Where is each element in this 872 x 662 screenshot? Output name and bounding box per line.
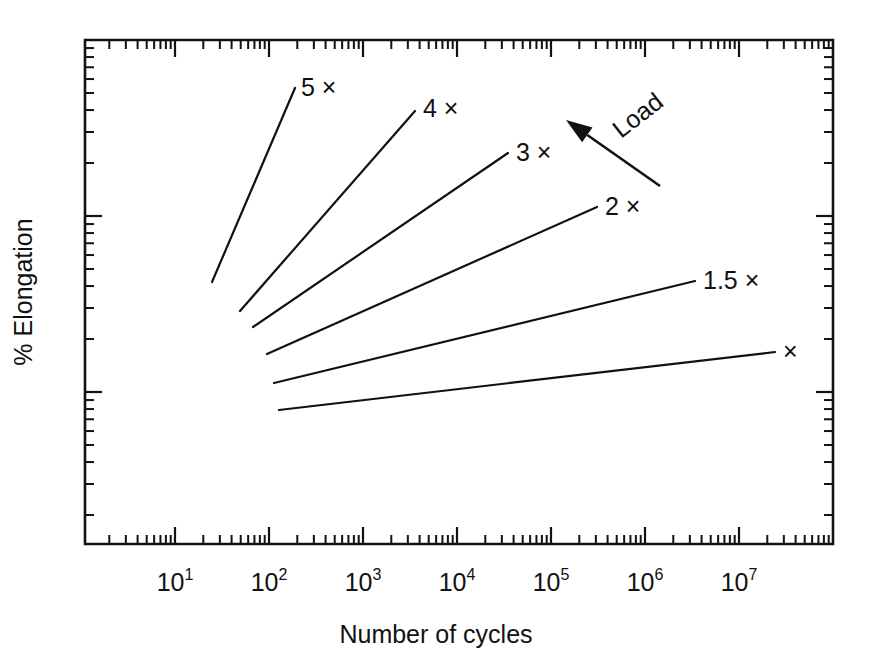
data-series-line — [279, 352, 775, 410]
x-axis-title: Number of cycles — [339, 620, 532, 648]
load-arrow-head — [566, 120, 592, 142]
data-series-line — [212, 88, 295, 282]
series-label: 4 × — [423, 94, 458, 122]
x-tick-label-exponent: 2 — [278, 566, 287, 583]
data-series-labels: 5 ×4 ×3 ×2 ×1.5 ×× — [301, 73, 798, 365]
x-tick-label: 105 — [533, 566, 570, 596]
data-series-line — [253, 153, 508, 327]
x-tick-label: 102 — [251, 566, 288, 596]
series-label: 2 × — [605, 192, 640, 220]
series-label: × — [783, 337, 798, 365]
series-label: 5 × — [301, 73, 336, 101]
load-arrow-label: Load — [607, 87, 668, 143]
x-tick-label-exponent: 7 — [748, 566, 757, 583]
x-tick-label-base: 10 — [251, 568, 279, 596]
x-tick-label-base: 10 — [627, 568, 655, 596]
x-tick-label-base: 10 — [533, 568, 561, 596]
x-tick-label-base: 10 — [721, 568, 749, 596]
x-tick-label-exponent: 1 — [184, 566, 193, 583]
x-tick-label: 103 — [345, 566, 382, 596]
x-tick-label: 101 — [157, 566, 194, 596]
y-axis-title: % Elongation — [9, 218, 37, 365]
chart-canvas: 5 ×4 ×3 ×2 ×1.5 ×× 101102103104105106107… — [0, 0, 872, 662]
data-series-line — [267, 207, 597, 354]
x-tick-label-exponent: 6 — [654, 566, 663, 583]
x-tick-label-base: 10 — [439, 568, 467, 596]
series-label: 3 × — [516, 138, 551, 166]
load-arrow: Load — [566, 87, 668, 186]
x-tick-label-base: 10 — [157, 568, 185, 596]
x-tick-label-exponent: 3 — [372, 566, 381, 583]
x-tick-label: 106 — [627, 566, 664, 596]
data-series-lines — [212, 88, 775, 410]
series-label: 1.5 × — [703, 266, 759, 294]
x-axis-tick-labels: 101102103104105106107 — [157, 566, 758, 596]
chart-figure: 5 ×4 ×3 ×2 ×1.5 ×× 101102103104105106107… — [0, 0, 872, 662]
x-tick-label-base: 10 — [345, 568, 373, 596]
data-series-line — [240, 111, 415, 311]
x-tick-label: 104 — [439, 566, 476, 596]
x-tick-label-exponent: 5 — [560, 566, 569, 583]
x-tick-label-exponent: 4 — [466, 566, 475, 583]
x-tick-label: 107 — [721, 566, 758, 596]
